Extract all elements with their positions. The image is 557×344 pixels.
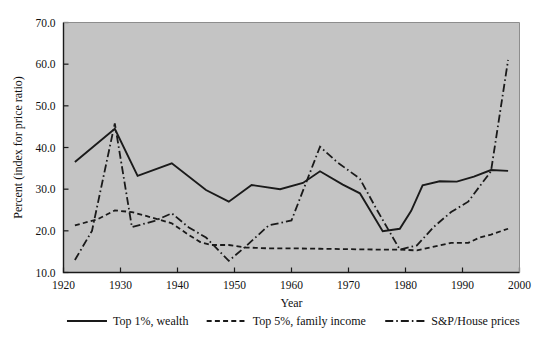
x-tick-label: 1960 bbox=[280, 279, 303, 291]
x-tick-label: 1940 bbox=[166, 279, 189, 291]
y-tick-label: 70.0 bbox=[35, 17, 55, 29]
x-axis-title: Year bbox=[280, 296, 302, 310]
y-tick-label: 50.0 bbox=[35, 100, 55, 112]
y-tick-label: 30.0 bbox=[35, 183, 55, 195]
x-tick-label: 2000 bbox=[508, 279, 531, 291]
plot-background bbox=[64, 23, 520, 273]
y-tick-label: 20.0 bbox=[35, 225, 55, 237]
y-tick-label: 10.0 bbox=[35, 267, 55, 279]
chart-legend: Top 1%, wealthTop 5%, family incomeS&P/H… bbox=[67, 314, 520, 328]
plot-area-background bbox=[64, 23, 520, 273]
x-tick-label: 1930 bbox=[109, 279, 132, 291]
y-tick-label: 60.0 bbox=[35, 58, 55, 70]
x-tick-label: 1950 bbox=[223, 279, 246, 291]
x-tick-label: 1970 bbox=[337, 279, 360, 291]
chart-figure: 10.020.030.040.050.060.070.0 19201930194… bbox=[0, 0, 557, 344]
y-axis-title: Percent (index for price ratio) bbox=[11, 76, 25, 219]
x-tick-label: 1920 bbox=[52, 279, 75, 291]
legend-label: Top 1%, wealth bbox=[113, 314, 188, 328]
y-tick-label: 40.0 bbox=[35, 142, 55, 154]
x-tick-label: 1990 bbox=[451, 279, 474, 291]
x-tick-label: 1980 bbox=[394, 279, 417, 291]
legend-label: S&P/House prices bbox=[431, 314, 520, 328]
line-chart: 10.020.030.040.050.060.070.0 19201930194… bbox=[0, 0, 557, 344]
legend-label: Top 5%, family income bbox=[253, 314, 366, 328]
